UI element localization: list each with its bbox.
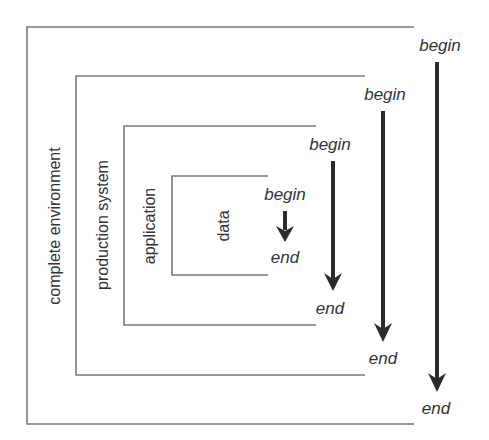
nested-layers-diagram: complete environment begin end productio…: [0, 0, 489, 440]
begin-label-production-system: begin: [364, 85, 406, 104]
layer-label-complete-environment: complete environment: [46, 147, 63, 305]
layer-application: application begin end: [124, 126, 351, 325]
begin-label-complete-environment: begin: [419, 36, 461, 55]
end-label-production-system: end: [369, 349, 398, 368]
end-label-complete-environment: end: [422, 399, 451, 418]
end-label-application: end: [316, 299, 345, 318]
end-label-data: end: [271, 248, 300, 267]
layer-label-application: application: [141, 188, 158, 265]
begin-label-application: begin: [309, 135, 351, 154]
layer-label-production-system: production system: [94, 160, 111, 290]
layer-label-data: data: [215, 210, 232, 241]
begin-label-data: begin: [264, 185, 306, 204]
layer-data: data begin end: [172, 176, 306, 275]
layer-production-system: production system begin end: [76, 76, 406, 375]
